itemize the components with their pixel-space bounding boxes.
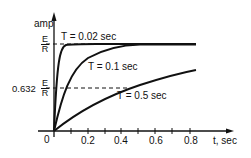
origin-label: 0 xyxy=(44,135,50,145)
y-axis-label: amp xyxy=(34,19,53,29)
label-t-01: T = 0.1 sec xyxy=(88,62,138,72)
rl-current-rise-diagram: amp E R 0.632 E R T = 0.02 sec T = 0.1 s… xyxy=(0,0,251,158)
label-t-002: T = 0.02 sec xyxy=(61,32,116,42)
er-denominator: R xyxy=(41,45,49,54)
0632-er-label: E R xyxy=(41,79,49,98)
x-axis-arrow-icon xyxy=(226,129,234,134)
label-t-05: T = 0.5 sec xyxy=(117,91,167,101)
er-denominator: R xyxy=(41,89,49,98)
tick-label-08: 0.8 xyxy=(184,136,198,146)
coef-label: 0.632 xyxy=(12,84,36,94)
tick-label-04: 0.4 xyxy=(114,136,128,146)
tick-label-02: 0.2 xyxy=(81,136,95,146)
er-numerator: E xyxy=(41,35,49,44)
er-label: E R xyxy=(41,35,49,54)
x-axis-label: t, sec xyxy=(213,136,237,146)
tick-label-06: 0.6 xyxy=(149,136,163,146)
er-numerator: E xyxy=(41,79,49,88)
